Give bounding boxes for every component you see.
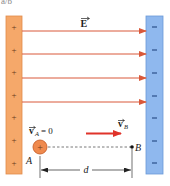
point-b-dot <box>130 145 134 149</box>
plus-sign: + <box>11 45 16 55</box>
distance-label: d <box>84 164 90 175</box>
figure-label-fragment: a/b <box>1 0 12 6</box>
velocity-a-subscript: A <box>34 130 39 137</box>
velocity-a-symbol: v <box>29 126 34 136</box>
point-b-label: B <box>135 142 141 153</box>
negative-plate <box>146 16 163 174</box>
plus-sign: + <box>11 67 16 77</box>
field-label: E <box>81 17 90 29</box>
capacitor-diagram: a/b +++++++ E v A = 0 v B + A B <box>0 0 170 186</box>
plus-sign: + <box>11 90 16 100</box>
plus-sign: + <box>11 135 16 145</box>
plus-sign: + <box>11 158 16 168</box>
plus-sign: + <box>11 112 16 122</box>
electric-field-lines <box>22 31 146 102</box>
point-a-label: A <box>25 155 33 166</box>
velocity-b-subscript: B <box>124 123 128 130</box>
plus-sign: + <box>11 22 16 32</box>
velocity-b-symbol: v <box>118 119 123 129</box>
charge-sign: + <box>37 142 43 153</box>
field-label-text: E <box>81 18 88 29</box>
velocity-b-label: v B <box>118 119 128 130</box>
velocity-a-label: v A = 0 <box>29 126 53 137</box>
positive-charge-particle: + <box>33 140 47 154</box>
velocity-a-value: = 0 <box>41 126 53 136</box>
